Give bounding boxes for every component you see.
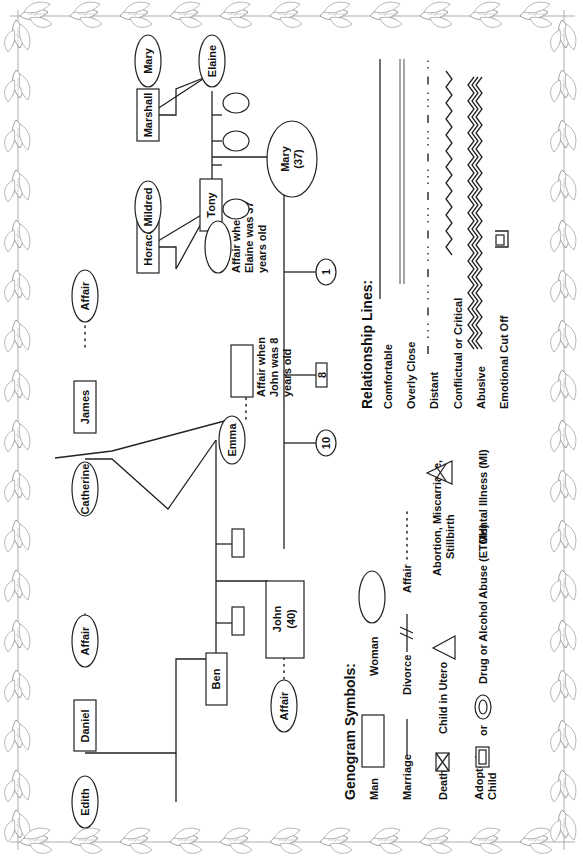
child-in-utero-icon (433, 636, 455, 659)
svg-text:or: or (477, 724, 489, 736)
person-john[interactable]: John (40) (266, 581, 304, 658)
child-male-8[interactable]: 8 (316, 363, 328, 387)
svg-text:Edith: Edith (79, 788, 91, 816)
person-daniel-affair[interactable]: Affair (72, 615, 98, 667)
person-catherine[interactable]: Catherine (72, 462, 98, 516)
svg-text:years old: years old (281, 349, 293, 397)
death-symbol-icon (436, 753, 449, 771)
child-female-b[interactable] (223, 131, 249, 151)
person-mary[interactable]: Mary (37) (267, 121, 317, 197)
emma-affair-note: Affair when John was 8 years old (255, 337, 293, 397)
svg-text:James: James (79, 390, 91, 424)
svg-text:Mildred: Mildred (142, 187, 154, 226)
svg-text:Distant: Distant (428, 371, 440, 409)
svg-text:Child: Child (486, 773, 498, 801)
person-john-affair[interactable]: Affair (271, 680, 297, 732)
overly-close-line-icon (400, 59, 404, 284)
man-symbol-icon (362, 715, 384, 767)
svg-text:Marriage: Marriage (401, 754, 413, 800)
svg-text:years old: years old (256, 225, 268, 273)
svg-text:Affair when: Affair when (230, 213, 242, 273)
svg-text:Catherine: Catherine (79, 464, 91, 515)
adopted-square-icon (476, 747, 489, 767)
svg-text:(37): (37) (292, 149, 304, 169)
svg-text:Child in Utero: Child in Utero (437, 662, 449, 734)
svg-text:Death: Death (437, 769, 449, 800)
svg-text:8: 8 (316, 372, 328, 378)
person-elaine[interactable]: Elaine (199, 35, 225, 87)
svg-text:Ben: Ben (210, 668, 222, 689)
svg-text:Mary: Mary (142, 47, 154, 74)
svg-text:Daniel: Daniel (79, 709, 91, 742)
svg-text:Affair when: Affair when (255, 337, 267, 397)
svg-text:Elaine: Elaine (206, 45, 218, 77)
svg-text:Man: Man (368, 778, 380, 800)
svg-text:Drug or Alcohol Abuse (ETOH): Drug or Alcohol Abuse (ETOH) (477, 524, 489, 684)
child-female-1[interactable]: 1 (316, 259, 336, 285)
svg-text:Affair: Affair (278, 691, 290, 720)
legend-relationships-title: Relationship Lines: (359, 280, 375, 409)
person-emma[interactable]: Emma (219, 416, 245, 464)
person-ben[interactable]: Ben (206, 653, 227, 705)
child-female-10[interactable]: 10 (316, 430, 336, 456)
svg-text:Horace: Horace (142, 228, 154, 265)
svg-text:Tony: Tony (205, 191, 217, 217)
svg-text:John was 8: John was 8 (268, 338, 280, 397)
person-edith[interactable]: Edith (72, 776, 98, 828)
genogram-diagram: Edith Daniel Affair Ben Joh (0, 0, 583, 859)
genogram-stage: Edith Daniel Affair Ben Joh (0, 0, 583, 859)
woman-symbol-icon (359, 571, 385, 623)
svg-text:Mental Illness (MI): Mental Illness (MI) (477, 449, 489, 544)
svg-text:John: John (271, 606, 283, 633)
child-male-2[interactable] (232, 529, 244, 557)
person-emma-affair[interactable] (231, 345, 253, 397)
svg-text:Abusive: Abusive (475, 366, 487, 409)
svg-text:Affair: Affair (79, 626, 91, 655)
legend-symbols-title: Genogram Symbols: (342, 663, 358, 800)
emotional-cutoff-icon (495, 231, 508, 247)
svg-text:Affair: Affair (401, 564, 413, 593)
genogram-page: Edith Daniel Affair Ben Joh (0, 0, 583, 859)
conflictual-line-icon (446, 71, 452, 255)
svg-text:Emma: Emma (226, 423, 238, 457)
svg-text:Overly Close: Overly Close (405, 342, 417, 409)
svg-text:Mary: Mary (279, 145, 291, 172)
svg-text:Marshall: Marshall (142, 93, 154, 138)
child-female-c[interactable] (223, 93, 249, 113)
adopted-circle-icon (475, 695, 491, 719)
person-mildred[interactable]: Mildred (135, 181, 161, 233)
person-mary-elder[interactable]: Mary (135, 35, 161, 87)
person-tony-affair[interactable] (205, 221, 231, 273)
svg-text:1: 1 (320, 269, 332, 275)
svg-text:Divorce: Divorce (401, 655, 413, 695)
abusive-line-icon (468, 77, 482, 349)
child-male-1[interactable] (232, 607, 244, 635)
legend-relationship-lines: Relationship Lines: Comfortable Overly C… (359, 59, 510, 409)
person-james[interactable]: James (74, 381, 96, 433)
divorce-line-icon (400, 614, 413, 652)
svg-text:Woman: Woman (368, 636, 380, 676)
legend-genogram-symbols: Genogram Symbols: Man Woman Marriage Div… (342, 449, 498, 800)
svg-text:10: 10 (320, 437, 332, 449)
person-marshall[interactable]: Marshall (137, 89, 159, 141)
marriage-line-catherine-james (85, 440, 216, 509)
svg-text:Stillbirth: Stillbirth (444, 514, 456, 559)
svg-text:Conflictual or Critical: Conflictual or Critical (452, 298, 464, 409)
child-female-a[interactable] (223, 199, 249, 219)
svg-text:(40): (40) (285, 609, 297, 629)
svg-text:Affair: Affair (79, 281, 91, 310)
svg-text:Emotional Cut Off: Emotional Cut Off (498, 315, 510, 409)
person-daniel[interactable]: Daniel (74, 700, 96, 751)
person-james-affair[interactable]: Affair (72, 270, 98, 322)
svg-text:Comfortable: Comfortable (382, 344, 394, 409)
marriage-line-daniel-edith (85, 659, 206, 753)
